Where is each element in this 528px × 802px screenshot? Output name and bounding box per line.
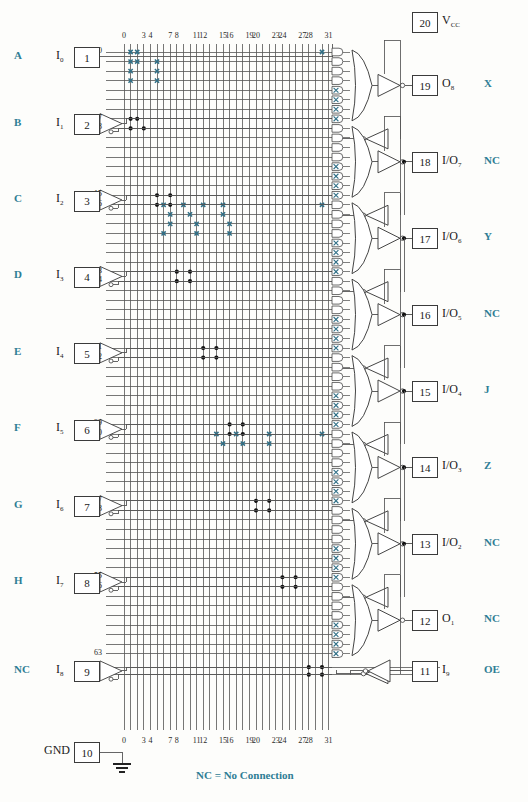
- and-gate-product-term: [332, 573, 343, 581]
- column-label-bottom: 0: [117, 736, 131, 745]
- and-gate-product-term: [332, 583, 343, 591]
- pin-tag-label: OE: [484, 663, 500, 675]
- column-label-top: 20: [249, 31, 263, 40]
- gnd-label: GND: [44, 743, 70, 758]
- left-tag-h: H: [14, 574, 23, 586]
- and-gate-product-term: [332, 440, 343, 448]
- and-gate-product-term: [332, 382, 343, 390]
- and-gate-product-term: [332, 335, 343, 343]
- column-label-top: 4: [143, 31, 157, 40]
- pin-tag-label: NC: [484, 307, 500, 319]
- pin-box-9[interactable]: 9: [74, 661, 100, 682]
- and-gate-product-term: [332, 621, 343, 629]
- and-gate-product-term: [332, 631, 343, 639]
- pin-box-18[interactable]: 18: [412, 152, 438, 173]
- output-inverter: [378, 609, 400, 631]
- pin-tag-label: NC: [484, 536, 500, 548]
- and-gate-product-term: [332, 58, 343, 66]
- left-signal-label: I8: [56, 662, 64, 678]
- pin-box-16[interactable]: 16: [412, 305, 438, 326]
- feedback-buffer: [366, 587, 388, 607]
- and-gate-product-term: [332, 449, 343, 457]
- and-gate-product-term: [332, 650, 343, 658]
- and-gate-product-term: [332, 134, 343, 142]
- and-gate-product-term: [332, 86, 343, 94]
- pin-tag-label: J: [484, 383, 490, 395]
- and-gate-product-term: [332, 554, 343, 562]
- and-gate-product-term: [332, 182, 343, 190]
- and-gate-product-term: [332, 287, 343, 295]
- pin-signal-label: I/O3: [442, 458, 462, 474]
- pin-box-4[interactable]: 4: [74, 267, 100, 288]
- pin-box-17[interactable]: 17: [412, 228, 438, 249]
- and-gate-product-term: [332, 77, 343, 85]
- and-gate-product-term: [332, 211, 343, 219]
- pin-box-10[interactable]: 10: [74, 742, 100, 763]
- left-signal-label: I3: [56, 267, 64, 283]
- pin-box-2[interactable]: 2: [74, 114, 100, 135]
- column-label-bottom: 31: [322, 736, 336, 745]
- left-tag-c: C: [14, 192, 22, 204]
- column-label-top: 28: [302, 31, 316, 40]
- column-label-top: 8: [170, 31, 184, 40]
- oe-buffer-bubble: [363, 669, 367, 673]
- row-label: 63: [80, 648, 102, 657]
- output-inverter: [378, 456, 400, 478]
- feedback-buffer: [366, 511, 388, 531]
- pin-signal-label: I9: [442, 662, 450, 678]
- pin-box-15[interactable]: 15: [412, 381, 438, 402]
- output-inverter: [378, 380, 400, 402]
- and-gate-product-term: [332, 363, 343, 371]
- pin-signal-label: O8: [442, 76, 454, 92]
- column-label-bottom: 28: [302, 736, 316, 745]
- pin-box-14[interactable]: 14: [412, 457, 438, 478]
- left-tag-e: E: [14, 345, 21, 357]
- and-gate-product-term: [332, 478, 343, 486]
- left-signal-label: I4: [56, 344, 64, 360]
- left-tag-d: D: [14, 268, 22, 280]
- output-inverter: [378, 74, 400, 96]
- and-gate-product-term: [332, 526, 343, 534]
- pin-box-6[interactable]: 6: [74, 420, 100, 441]
- invert-bubble: [109, 359, 113, 363]
- pin-signal-label: I/O6: [442, 229, 462, 245]
- and-gate-product-term: [332, 468, 343, 476]
- output-invert-bubble: [400, 83, 404, 87]
- pld-logic-diagram: 0033447788111112121515161619192020232324…: [0, 0, 528, 802]
- output-inverter: [378, 304, 400, 326]
- and-gate-product-term: [332, 593, 343, 601]
- pin-box-12[interactable]: 12: [412, 610, 438, 631]
- and-gate-product-term: [332, 392, 343, 400]
- and-gate-product-term: [332, 172, 343, 180]
- left-signal-label: I5: [56, 420, 64, 436]
- invert-bubble: [109, 283, 113, 287]
- and-gate-product-term: [332, 316, 343, 324]
- left-tag-a: A: [14, 49, 22, 61]
- pin-box-7[interactable]: 7: [74, 496, 100, 517]
- pin-signal-label: I/O7: [442, 153, 462, 169]
- invert-bubble: [109, 206, 113, 210]
- left-signal-label: I1: [56, 115, 64, 131]
- and-gate-product-term: [332, 602, 343, 610]
- pin-box-5[interactable]: 5: [74, 343, 100, 364]
- pin-box-1[interactable]: 1: [74, 47, 100, 68]
- pin-tag-label: NC: [484, 612, 500, 624]
- left-tag-b: B: [14, 116, 21, 128]
- pin-box-20[interactable]: 20: [412, 12, 438, 33]
- column-label-bottom: 4: [143, 736, 157, 745]
- and-gate-product-term: [332, 125, 343, 133]
- and-gate-product-term: [332, 115, 343, 123]
- pin-box-19[interactable]: 19: [412, 75, 438, 96]
- column-label-top: 0: [117, 31, 131, 40]
- column-label-top: 24: [275, 31, 289, 40]
- pin-signal-label: I/O4: [442, 382, 462, 398]
- left-tag-f: F: [14, 421, 21, 433]
- pin-box-3[interactable]: 3: [74, 191, 100, 212]
- output-inverter: [378, 533, 400, 555]
- feedback-buffer: [366, 129, 388, 149]
- pin-box-11[interactable]: 11: [412, 661, 438, 682]
- pin-box-8[interactable]: 8: [74, 573, 100, 594]
- and-gate-product-term: [332, 163, 343, 171]
- invert-bubble: [109, 588, 113, 592]
- pin-box-13[interactable]: 13: [412, 534, 438, 555]
